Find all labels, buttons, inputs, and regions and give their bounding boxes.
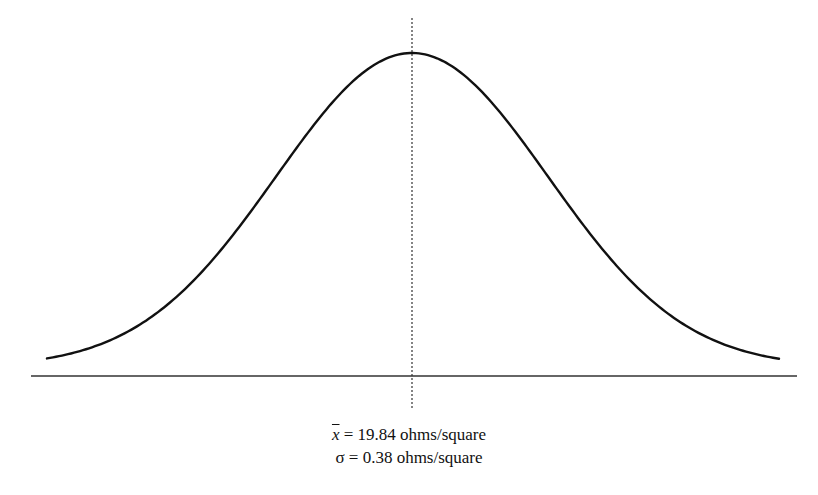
sigma-value: = 0.38 ohms/square [345, 448, 483, 467]
sigma-caption: σ = 0.38 ohms/square [0, 448, 818, 468]
sigma-symbol: σ [335, 448, 344, 467]
bell-curve [47, 53, 779, 359]
mean-value: = 19.84 ohms/square [340, 425, 487, 444]
normal-distribution-figure [0, 0, 818, 495]
mean-symbol: x [332, 425, 340, 444]
mean-caption: x = 19.84 ohms/square [0, 425, 818, 445]
